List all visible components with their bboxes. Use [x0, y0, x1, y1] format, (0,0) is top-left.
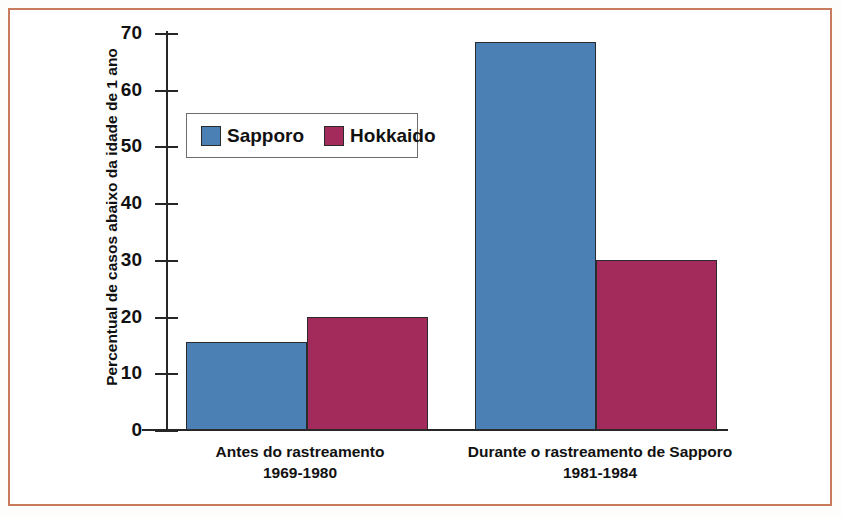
y-tick-mark	[155, 146, 178, 148]
chart-legend: Sapporo Hokkaido	[186, 113, 418, 158]
category-line-1: Antes do rastreamento	[216, 443, 385, 460]
legend-label: Sapporo	[227, 126, 304, 145]
y-tick-label: 60	[96, 80, 142, 99]
bar-hokkaido-durante[interactable]	[596, 260, 717, 430]
y-tick-label: 20	[96, 307, 142, 326]
bar-sapporo-antes[interactable]	[186, 342, 307, 430]
y-tick-label: 70	[96, 23, 142, 42]
bar-sapporo-durante[interactable]	[475, 42, 596, 430]
y-tick-mark	[155, 373, 178, 375]
y-tick-label: 40	[96, 193, 142, 212]
maroon-square-swatch-icon	[324, 126, 344, 146]
category-line-2: 1969-1980	[175, 463, 425, 484]
chart-screenshot: Percentual de casos abaixo da idade de 1…	[0, 0, 842, 516]
y-tick-mark	[155, 203, 178, 205]
legend-item-sapporo[interactable]: Sapporo	[201, 126, 304, 146]
x-axis-category-label-1: Durante o rastreamento de Sapporo 1981-1…	[455, 442, 745, 484]
legend-item-hokkaido[interactable]: Hokkaido	[324, 126, 436, 146]
category-line-1: Durante o rastreamento de Sapporo	[468, 443, 732, 460]
category-line-2: 1981-1984	[455, 463, 745, 484]
y-tick-mark	[155, 260, 178, 262]
bar-chart-plot-area: Percentual de casos abaixo da idade de 1…	[0, 0, 842, 516]
y-tick-label: 50	[96, 136, 142, 155]
bar-hokkaido-antes[interactable]	[307, 317, 428, 430]
x-axis-category-label-0: Antes do rastreamento 1969-1980	[175, 442, 425, 484]
legend-label: Hokkaido	[350, 126, 436, 145]
y-tick-mark	[155, 33, 178, 35]
y-tick-label: 0	[96, 420, 142, 439]
y-tick-mark	[155, 90, 178, 92]
blue-square-swatch-icon	[201, 126, 221, 146]
y-tick-mark	[155, 430, 178, 432]
y-tick-label: 10	[96, 363, 142, 382]
y-tick-mark	[155, 317, 178, 319]
y-tick-label: 30	[96, 250, 142, 269]
